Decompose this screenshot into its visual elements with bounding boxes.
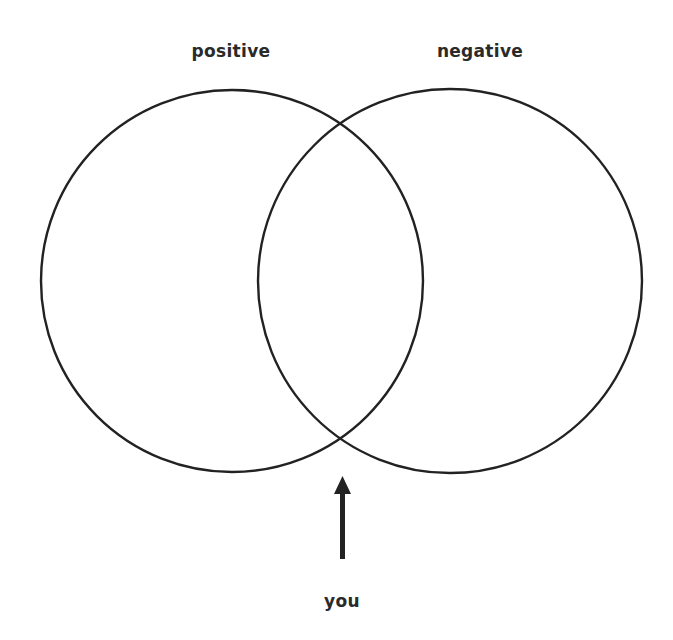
venn-diagram (0, 0, 673, 640)
positive-circle (41, 90, 423, 472)
negative-circle (258, 89, 642, 473)
negative-label: negative (437, 41, 523, 61)
you-label: you (324, 591, 360, 611)
positive-label: positive (192, 41, 271, 61)
arrow-up-icon (334, 476, 351, 559)
